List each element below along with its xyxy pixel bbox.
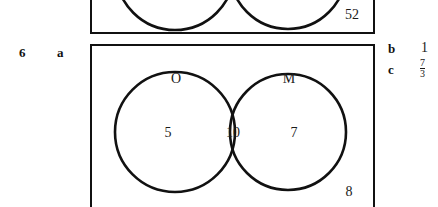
answer-b: 1 [421, 41, 428, 55]
fraction-denominator: 3 [420, 68, 425, 79]
part-label-b: b [388, 42, 395, 55]
page-canvas: 52 6 a O M 5 10 7 8 b 1 c 7 3 [0, 0, 438, 207]
region-label-outside: 8 [342, 185, 356, 199]
part-label-a: a [57, 46, 64, 59]
region-label-left-only: 5 [161, 126, 175, 140]
answer-c: 7 3 [420, 58, 425, 79]
region-label-intersection: 10 [222, 126, 244, 140]
fraction-numerator: 7 [420, 58, 425, 68]
universal-set-rectangle-previous [90, 0, 375, 34]
set-label-right: M [280, 72, 298, 86]
part-label-c: c [388, 63, 394, 76]
question-number: 6 [19, 46, 26, 59]
region-label-right-only: 7 [287, 126, 301, 140]
fraction: 7 3 [420, 58, 425, 79]
region-label-outside-previous: 52 [342, 8, 362, 22]
set-label-left: O [168, 72, 184, 86]
